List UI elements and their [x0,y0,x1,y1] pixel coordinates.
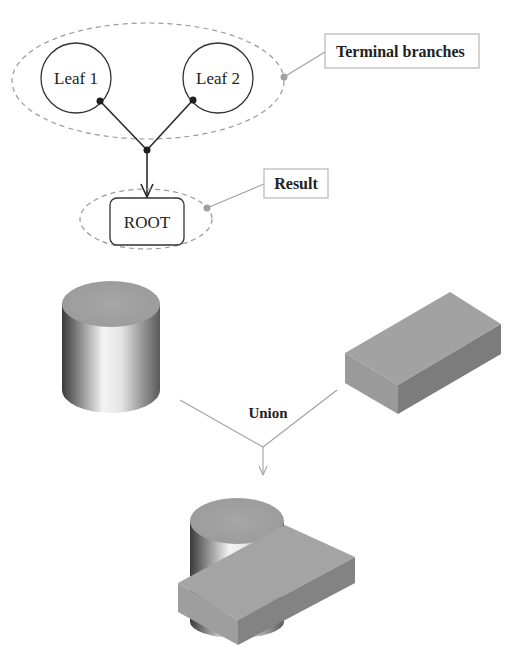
csg-tree-diagram: Leaf 1 Leaf 2 ROOT Terminal branches [0,0,523,662]
junction-dot [144,147,151,154]
leaf-1-port-dot [97,98,104,105]
union-connector [180,390,337,475]
union-label: Union [248,405,288,421]
result-label: Result [274,175,318,192]
leaf-2-port-dot [190,97,197,104]
root-node: ROOT [110,198,184,245]
terminal-branches-label: Terminal branches [336,43,465,60]
terminal-branches-callout: Terminal branches [281,34,480,81]
leaf-2-label: Leaf 2 [196,69,240,88]
result-group: ROOT [80,189,212,249]
cylinder-solid [62,281,160,413]
root-label: ROOT [124,213,171,232]
terminal-branches-group: Leaf 1 Leaf 2 [12,23,284,139]
box-solid [345,292,501,414]
result-callout: Result [204,169,329,212]
union-result-solid [178,498,355,645]
leaf-1-label: Leaf 1 [54,69,98,88]
